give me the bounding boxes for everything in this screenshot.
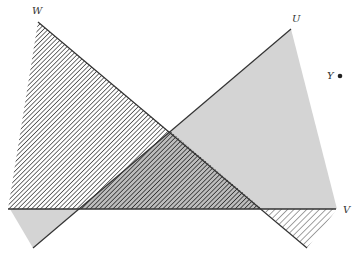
label-W: W: [32, 5, 43, 16]
point-Y-dot: [338, 74, 343, 79]
label-U: U: [292, 13, 301, 24]
label-V: V: [343, 204, 352, 215]
label-Y: Y: [327, 70, 335, 81]
geometry-diagram: W U Y V: [0, 0, 357, 260]
lower-left-gray-wedge: [10, 209, 79, 248]
